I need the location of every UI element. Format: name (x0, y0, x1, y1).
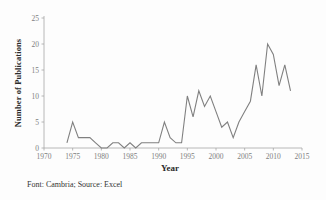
figure-caption: Font: Cambria; Source: Excel (27, 180, 122, 189)
plot-area (0, 0, 326, 200)
chart-screenshot: Number of Publications Year 0510152025 1… (0, 0, 326, 200)
publications-line-chart: Number of Publications Year 0510152025 1… (0, 0, 326, 200)
data-series-lines (67, 44, 291, 148)
